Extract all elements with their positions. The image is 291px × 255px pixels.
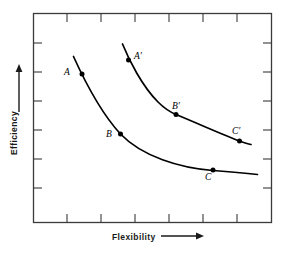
point-label-a: A [64, 67, 70, 77]
marker-point-c-prime [237, 139, 242, 144]
point-label-b: B [106, 129, 112, 139]
marker-point-a-prime [126, 58, 131, 63]
x-axis-arrow [161, 233, 204, 240]
point-label-b-prime: B′ [172, 101, 180, 111]
plot-area [0, 0, 291, 255]
point-label-c-prime: C′ [232, 126, 240, 136]
x-axis-title: Flexibility [112, 232, 156, 242]
marker-point-a [80, 72, 85, 77]
chart-figure: Flexibility Efficiency A B C A′ B′ C′ [0, 0, 291, 255]
y-axis-title: Efficiency [9, 103, 19, 163]
point-label-c: C [205, 172, 211, 182]
marker-point-b-prime [174, 112, 179, 117]
plot-frame [34, 14, 272, 223]
marker-point-b [118, 132, 123, 137]
point-label-a-prime: A′ [134, 51, 142, 61]
